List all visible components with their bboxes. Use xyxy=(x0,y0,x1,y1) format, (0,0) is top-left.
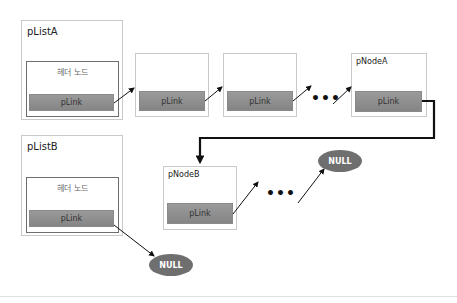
node-a1-link: pLink xyxy=(139,91,205,111)
null-terminal-a: NULL xyxy=(318,150,362,172)
list-b-label: pListB xyxy=(27,141,58,152)
pnode-a-label: pNodeA xyxy=(356,57,387,66)
node-pnode-a-link: pLink xyxy=(355,91,422,112)
list-b-header-link: pLink xyxy=(29,210,114,227)
bottom-divider xyxy=(0,296,457,297)
ellipsis-b: ••• xyxy=(266,186,296,200)
list-a-header-label: 헤더 노드 xyxy=(27,66,118,77)
list-a-header-link: pLink xyxy=(29,94,114,111)
pnode-b-label: pNodeB xyxy=(168,170,199,179)
node-a2-link: pLink xyxy=(227,91,293,111)
ellipsis-a: ••• xyxy=(311,91,341,105)
arrow-ellipsis-to-null-a xyxy=(298,169,324,203)
list-b-header-label: 헤더 노드 xyxy=(27,182,118,193)
node-pnode-b-link: pLink xyxy=(167,203,233,224)
list-a-label: pListA xyxy=(27,26,58,37)
null-terminal-b: NULL xyxy=(149,254,193,276)
